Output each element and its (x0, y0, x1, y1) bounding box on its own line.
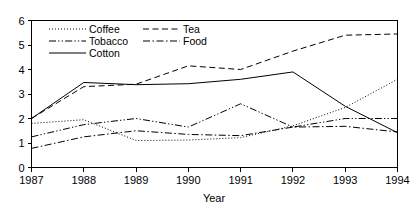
x-tick-label: 1989 (124, 174, 148, 186)
y-tick-label: 4 (18, 64, 24, 76)
legend-label-tobacco: Tobacco (89, 35, 128, 47)
legend-label-cotton: Cotton (89, 47, 120, 59)
x-tick-label: 1990 (176, 174, 200, 186)
y-tick-label: 2 (18, 113, 24, 125)
legend-label-tea: Tea (183, 23, 200, 35)
x-tick-label: 1991 (228, 174, 252, 186)
legend-label-food: Food (183, 35, 207, 47)
y-tick-label: 1 (18, 137, 24, 149)
y-tick-label: 3 (18, 88, 24, 100)
y-tick-label: 5 (18, 39, 24, 51)
y-tick-label: 6 (18, 15, 24, 27)
x-tick-label: 1993 (333, 174, 357, 186)
y-tick-label: 0 (18, 162, 24, 174)
legend-label-coffee: Coffee (89, 23, 120, 35)
x-tick-label: 1987 (19, 174, 43, 186)
line-chart: 0123456 19871988198919901991199219931994… (0, 0, 419, 211)
x-tick-label: 1994 (385, 174, 409, 186)
chart-container: 0123456 19871988198919901991199219931994… (0, 0, 419, 211)
x-tick-label: 1992 (281, 174, 305, 186)
x-tick-label: 1988 (72, 174, 96, 186)
x-axis-title: Year (203, 192, 226, 204)
